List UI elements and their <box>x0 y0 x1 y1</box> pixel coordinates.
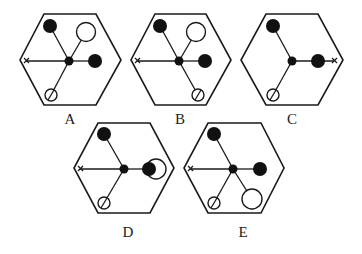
filled-circle-icon <box>266 19 280 33</box>
option-e: E <box>184 123 284 240</box>
filled-circle-icon <box>43 19 57 33</box>
filled-circle-icon <box>88 54 102 68</box>
filled-circle-icon <box>153 19 167 33</box>
filled-circle-icon <box>142 162 156 176</box>
center-dot-icon <box>229 165 238 174</box>
filled-circle-icon <box>97 127 111 141</box>
open-circle-icon <box>242 189 262 209</box>
center-dot-icon <box>288 57 297 66</box>
option-b: B <box>131 14 231 127</box>
option-c: C <box>241 14 343 127</box>
option-label-c: C <box>287 111 297 127</box>
slashed-circle-icon <box>267 89 279 101</box>
slashed-circle-icon <box>98 197 110 209</box>
slashed-circle-icon <box>45 89 57 101</box>
option-diagram: A B <box>0 0 362 254</box>
slashed-circle-icon <box>192 89 204 101</box>
open-circle-icon <box>187 23 206 42</box>
slashed-circle-icon <box>208 197 220 209</box>
option-label-a: A <box>65 111 76 127</box>
filled-circle-icon <box>198 54 212 68</box>
option-a: A <box>20 14 121 127</box>
filled-circle-icon <box>253 162 267 176</box>
filled-circle-icon <box>207 127 221 141</box>
option-d: D <box>74 123 174 240</box>
center-dot-icon <box>120 165 129 174</box>
option-label-e: E <box>238 224 247 240</box>
filled-circle-icon <box>311 54 325 68</box>
option-label-d: D <box>123 224 134 240</box>
center-dot-icon <box>175 57 184 66</box>
center-dot-icon <box>65 57 74 66</box>
open-circle-icon <box>77 23 96 42</box>
option-label-b: B <box>175 111 185 127</box>
